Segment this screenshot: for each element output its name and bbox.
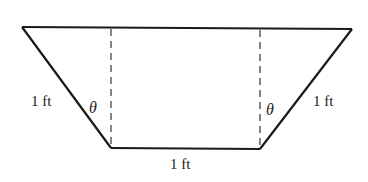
bottom-label: 1 ft [170, 156, 191, 172]
trapezoid-diagram: 1 ft θ θ 1 ft 1 ft [0, 0, 368, 182]
right-side [260, 29, 352, 149]
left-side-label: 1 ft [31, 93, 52, 109]
left-angle-label: θ [89, 99, 97, 116]
bottom-edge [111, 148, 260, 149]
right-angle-label: θ [266, 101, 274, 118]
right-side-label: 1 ft [313, 93, 334, 109]
left-side [22, 27, 111, 148]
top-edge [22, 27, 352, 29]
